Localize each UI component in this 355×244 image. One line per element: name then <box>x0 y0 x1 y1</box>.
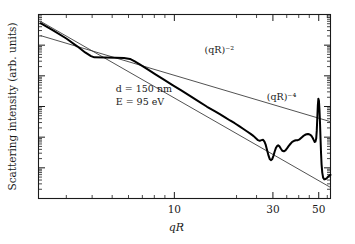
annotation-sample-thickness: d = 150 nm <box>116 83 172 94</box>
guide-line-qR-power-minus-2 <box>41 36 331 122</box>
axis-tick-labels: 103050 <box>168 203 326 215</box>
axis-ticks <box>39 15 331 199</box>
plot-canvas: 103050 (qR)⁻²(qR)⁻⁴d = 150 nmE = 95 eV q… <box>0 0 355 244</box>
annotation-power-law-2: (qR)⁻² <box>205 44 235 55</box>
annotation-beam-energy: E = 95 eV <box>116 96 165 107</box>
guide-lines <box>41 21 331 187</box>
x-axis-label: qR <box>169 221 184 234</box>
scattering-intensity-figure: 103050 (qR)⁻²(qR)⁻⁴d = 150 nmE = 95 eV q… <box>0 0 355 244</box>
plot-annotations: (qR)⁻²(qR)⁻⁴d = 150 nmE = 95 eV <box>116 44 297 107</box>
x-tick-label-50: 50 <box>312 203 325 215</box>
annotation-power-law-4: (qR)⁻⁴ <box>267 91 297 102</box>
x-tick-label-30: 30 <box>266 203 279 215</box>
guide-line-qR-power-minus-4 <box>41 21 331 187</box>
x-tick-label-10: 10 <box>168 203 181 215</box>
y-axis-label: Scattering intensity (arb. units) <box>6 22 18 190</box>
plot-frame <box>39 15 331 199</box>
